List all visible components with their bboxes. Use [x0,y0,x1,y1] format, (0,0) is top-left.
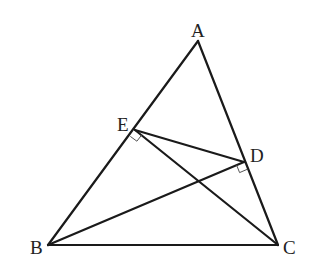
side-ac [198,41,278,245]
label-e: E [117,114,129,135]
label-a: A [191,20,205,41]
label-c: C [283,237,296,258]
right-angle-marker-e [130,135,142,141]
segment-ed [135,130,244,162]
label-d: D [250,145,264,166]
right-angle-marker-d [237,165,247,173]
triangle-diagram: A B C D E [0,0,317,278]
label-b: B [30,237,43,258]
